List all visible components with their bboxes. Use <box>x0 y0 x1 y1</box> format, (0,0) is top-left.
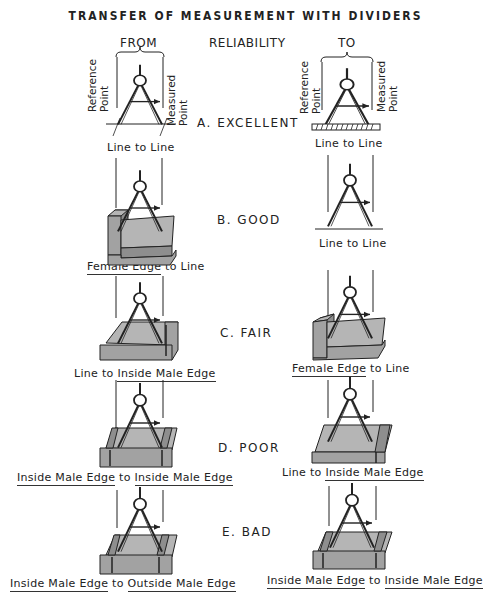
divider-diagram-c-from <box>100 276 178 360</box>
drawings-layer <box>0 0 491 604</box>
divider-diagram-e-to <box>313 483 392 569</box>
divider-diagram-a-to <box>312 52 380 130</box>
divider-diagram-a-from <box>106 47 176 136</box>
divider-diagram-b-from <box>108 158 176 265</box>
divider-diagram-c-to <box>313 270 385 360</box>
divider-diagram-d-to <box>312 377 392 463</box>
divider-diagram-b-to <box>315 155 383 229</box>
divider-diagram-e-from <box>100 487 177 574</box>
divider-diagram-d-from <box>100 380 177 467</box>
